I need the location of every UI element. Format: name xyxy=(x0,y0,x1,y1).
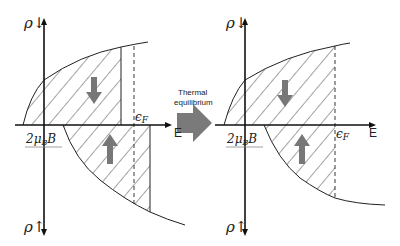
energy-axis-arrowhead-icon xyxy=(165,122,172,128)
spin-down-filled-region xyxy=(0,0,200,246)
spin-down-dos-label: ρ↓ xyxy=(23,14,45,32)
energy-axis-label: E xyxy=(369,126,377,140)
transition-label-line1: Thermal xyxy=(178,88,208,97)
spin-dos-diagram: ρ↓ ρ↑ E ϵF 2μBB Thermal equilibrium ρ↓ ρ… xyxy=(0,0,400,246)
zeeman-shift-label: 2μBB xyxy=(226,132,257,147)
thermal-equilibrium-arrow-icon xyxy=(177,104,212,142)
left-panel xyxy=(0,0,200,246)
zeeman-shift-label: 2μBB xyxy=(25,132,56,147)
right-panel xyxy=(200,0,400,246)
spin-down-dos-label: ρ↓ xyxy=(225,14,247,32)
spin-up-dos-label: ρ↑ xyxy=(225,218,247,236)
spin-up-dos-label: ρ↑ xyxy=(23,218,45,236)
fermi-energy-label: ϵF xyxy=(135,110,149,125)
energy-axis-label: E xyxy=(174,126,182,140)
fermi-energy-label: ϵF xyxy=(336,127,350,142)
transition-label-line2: equilibrium xyxy=(174,98,213,107)
